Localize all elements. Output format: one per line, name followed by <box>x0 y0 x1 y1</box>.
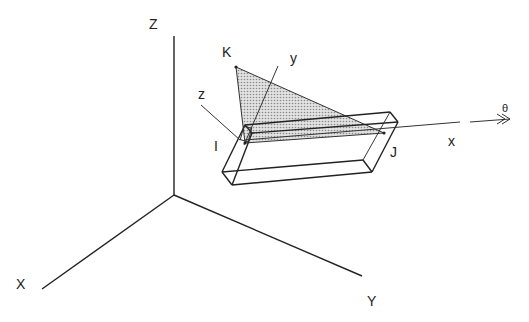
local-z-label: z <box>198 86 205 102</box>
node-J-label: J <box>390 144 397 160</box>
local-y-label: y <box>290 50 297 66</box>
node-J <box>382 131 385 134</box>
orientation-triangle-IJK <box>236 67 384 143</box>
global-x-axis <box>42 195 174 289</box>
theta-label: θ <box>502 102 508 114</box>
beam-element-diagram: Z X Y K I J y z x θ <box>0 0 529 322</box>
local-z-axis <box>201 105 240 140</box>
node-K <box>234 65 237 68</box>
global-x-label: X <box>16 276 26 292</box>
node-I-label: I <box>214 138 218 154</box>
global-y-axis <box>174 195 362 276</box>
global-axes <box>42 36 362 289</box>
node-K-label: K <box>222 44 232 60</box>
node-I <box>243 141 246 144</box>
local-x-label: x <box>448 133 455 149</box>
global-y-label: Y <box>367 293 377 309</box>
global-z-label: Z <box>149 16 158 32</box>
